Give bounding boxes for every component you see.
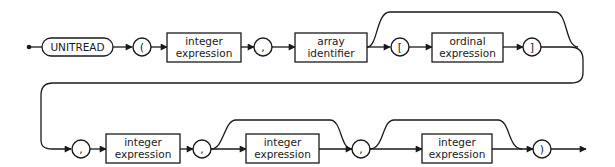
box-label-line2: expression: [439, 47, 496, 59]
box-label-line1: integer: [124, 136, 162, 148]
terminal-open-paren: (: [133, 38, 151, 56]
box-label-line1: integer: [264, 136, 302, 148]
syntax-diagram: UNITREAD ( integer expression , array id…: [0, 0, 615, 167]
box-label-line1: integer: [185, 35, 223, 47]
terminal-comma-4: ,: [352, 140, 370, 158]
terminal-close-bracket: ]: [523, 38, 541, 56]
box-label-line1: integer: [438, 136, 476, 148]
box-integer-expression-2: integer expression: [106, 134, 180, 163]
terminal-open-bracket: [: [391, 38, 409, 56]
box-label-line2: identifier: [307, 47, 355, 59]
comma-symbol: ,: [200, 143, 204, 156]
terminal-close-paren: ): [533, 140, 551, 158]
box-integer-expression-3: integer expression: [246, 134, 319, 163]
box-array-identifier: array identifier: [295, 33, 367, 62]
box-label-line2: expression: [176, 47, 233, 59]
close-bracket-symbol: ]: [530, 41, 534, 54]
box-ordinal-expression: ordinal expression: [432, 33, 503, 62]
open-bracket-symbol: [: [398, 41, 402, 54]
box-label-line2: expression: [429, 148, 486, 160]
comma-symbol: ,: [261, 41, 265, 54]
box-integer-expression-4: integer expression: [422, 134, 492, 163]
box-label-line1: ordinal: [449, 35, 485, 47]
keyword-unitread: UNITREAD: [42, 38, 113, 56]
comma-symbol: ,: [79, 143, 83, 156]
terminal-comma-3: ,: [193, 140, 211, 158]
close-paren-symbol: ): [540, 143, 544, 156]
box-label-line2: expression: [254, 148, 311, 160]
terminal-comma-1: ,: [254, 38, 272, 56]
box-label-line1: array: [317, 35, 345, 47]
box-label-line2: expression: [115, 148, 172, 160]
open-paren-symbol: (: [140, 41, 144, 54]
keyword-label: UNITREAD: [50, 41, 104, 53]
box-integer-expression-1: integer expression: [167, 33, 241, 62]
terminal-comma-2: ,: [72, 140, 90, 158]
comma-symbol: ,: [359, 143, 363, 156]
